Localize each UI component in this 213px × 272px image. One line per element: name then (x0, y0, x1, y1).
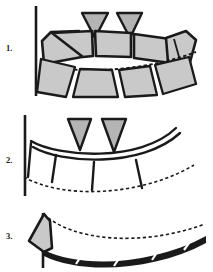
upper-segment-4 (134, 34, 170, 63)
anatomical-diagram-svg: .ink { fill:none; stroke:#1A1A1A; } .seg… (0, 0, 213, 272)
upper-segment-3 (95, 31, 131, 57)
panel-label-2: 2. (6, 156, 12, 165)
lower-segment-2 (73, 69, 118, 97)
panel-label-1: 1. (6, 44, 12, 53)
figure-canvas: .ink { fill:none; stroke:#1A1A1A; } .seg… (0, 0, 213, 272)
panel-label-3: 3. (6, 232, 12, 241)
lower-segment-3 (119, 66, 157, 97)
